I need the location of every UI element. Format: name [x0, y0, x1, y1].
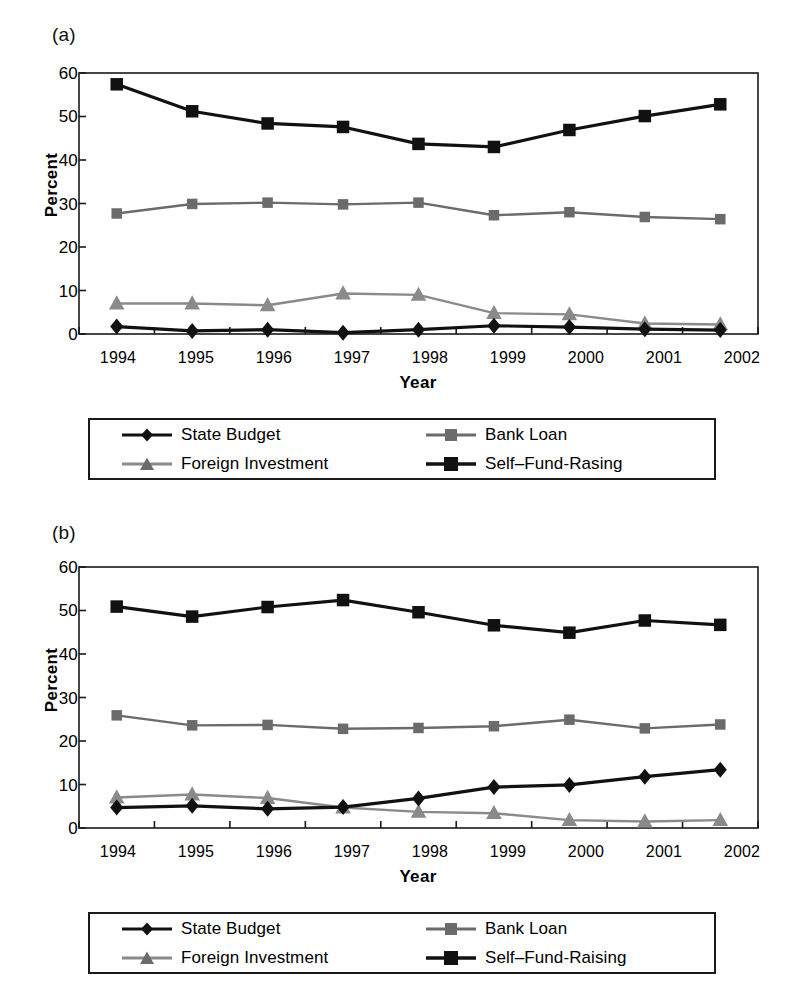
chart-a-point [487, 318, 500, 334]
legend-a-item-foreign-investment[interactable]: Foreign Investment [90, 454, 402, 474]
legend-b-item-state-budget[interactable]: State Budget [90, 919, 402, 939]
x-tick-a-1996: 1996 [256, 349, 292, 367]
chart-b-point [412, 790, 425, 806]
chart-a-point [563, 124, 576, 137]
square-marker-icon [424, 920, 478, 938]
chart-a-point [111, 208, 122, 219]
square-marker-icon [424, 426, 478, 444]
chart-a-point [110, 78, 123, 91]
x-tick-a-2001: 2001 [646, 349, 682, 367]
legend-a-label-1: Bank Loan [485, 425, 567, 445]
chart-b-series-self-fund-raising [110, 594, 726, 639]
legend-a-item-state-budget[interactable]: State Budget [90, 425, 402, 445]
x-tick-a-1998: 1998 [412, 349, 448, 367]
chart-a-point [335, 285, 351, 299]
chart-b-point [489, 721, 500, 732]
x-tick-b-1998: 1998 [412, 843, 448, 861]
chart-a-point [110, 319, 123, 335]
chart-b-point [413, 723, 424, 734]
chart-b-point [563, 626, 576, 639]
x-tick-a-2002: 2002 [724, 349, 760, 367]
chart-b-point [487, 779, 500, 795]
chart-a-point [564, 207, 575, 218]
triangle-marker-icon [120, 455, 174, 473]
chart-b-point [563, 777, 576, 793]
legend-b-item-foreign-investment[interactable]: Foreign Investment [90, 948, 402, 968]
chart-a-point [488, 141, 501, 154]
chart-a-point [412, 138, 425, 151]
triangle-marker-icon [120, 949, 174, 967]
chart-b-point [564, 714, 575, 725]
x-tick-a-1997: 1997 [334, 349, 370, 367]
chart-b-plot [0, 500, 792, 900]
chart-b-point [714, 762, 727, 778]
figure-root: (a) Percent 60 50 40 30 20 10 0 1994 199… [0, 0, 792, 1005]
x-tick-b-1997: 1997 [334, 843, 370, 861]
x-tick-b-2002: 2002 [724, 843, 760, 861]
chart-b-point [712, 812, 728, 826]
chart-a-point [563, 319, 576, 335]
x-axis-title-b: Year [78, 867, 758, 887]
legend-a-item-self-fund-rasing[interactable]: Self–Fund-Rasing [402, 454, 714, 474]
chart-b-point [262, 720, 273, 731]
panel-b: (b) Percent 60 50 40 30 20 10 0 1994 199… [0, 500, 792, 1005]
chart-a-point [413, 197, 424, 208]
chart-a-point [186, 323, 199, 339]
chart-a-point [337, 121, 350, 134]
x-tick-a-2000: 2000 [568, 349, 604, 367]
chart-b-point [412, 606, 425, 619]
x-tick-a-1995: 1995 [178, 349, 214, 367]
chart-a-series-bank-loan [111, 197, 725, 224]
chart-a-point [715, 214, 726, 225]
chart-b-point [639, 614, 652, 627]
legend-a: State Budget Bank Loan [88, 418, 716, 480]
legend-b-label-1: Bank Loan [485, 919, 567, 939]
chart-a-point [338, 199, 349, 210]
chart-b-point [110, 600, 123, 613]
chart-a-point [261, 322, 274, 338]
panel-a: (a) Percent 60 50 40 30 20 10 0 1994 199… [0, 0, 792, 500]
chart-b-point [187, 720, 198, 731]
x-tick-b-1995: 1995 [178, 843, 214, 861]
chart-a-point [412, 322, 425, 338]
legend-b-item-bank-loan[interactable]: Bank Loan [402, 919, 714, 939]
chart-a-point [187, 199, 198, 210]
x-tick-b-2001: 2001 [646, 843, 682, 861]
chart-a-point [639, 110, 652, 123]
chart-a-plot [0, 0, 792, 400]
diamond-marker-icon [120, 920, 174, 938]
chart-b-point [715, 719, 726, 730]
x-tick-b-1994: 1994 [100, 843, 136, 861]
diamond-marker-icon [120, 426, 174, 444]
legend-a-label-0: State Budget [181, 425, 281, 445]
chart-a-point [714, 98, 727, 111]
chart-b-point [714, 619, 727, 632]
x-axis-title-a: Year [78, 373, 758, 393]
chart-a-point [336, 325, 349, 341]
chart-b-point [638, 769, 651, 785]
legend-b: State Budget Bank Loan [88, 912, 716, 974]
square-marker-icon [424, 455, 478, 473]
legend-a-item-bank-loan[interactable]: Bank Loan [402, 425, 714, 445]
x-tick-a-1999: 1999 [490, 349, 526, 367]
legend-b-label-0: State Budget [181, 919, 281, 939]
chart-b-point [186, 610, 199, 623]
chart-b-series-bank-loan [111, 710, 725, 734]
x-tick-b-1996: 1996 [256, 843, 292, 861]
chart-a-point [640, 212, 651, 223]
legend-b-item-self-fund-raising[interactable]: Self–Fund-Raising [402, 948, 714, 968]
chart-a-series-self-fund-rasing [110, 78, 726, 153]
x-tick-a-1994: 1994 [100, 349, 136, 367]
chart-b-point [111, 710, 122, 721]
chart-b-point [488, 619, 501, 632]
x-tick-b-2000: 2000 [568, 843, 604, 861]
legend-a-label-3: Self–Fund-Rasing [485, 454, 623, 474]
chart-a-point [262, 197, 273, 208]
legend-b-label-3: Self–Fund-Raising [485, 948, 627, 968]
legend-b-label-2: Foreign Investment [181, 948, 328, 968]
chart-a-point [261, 117, 274, 129]
chart-b-point [337, 594, 350, 607]
x-tick-b-1999: 1999 [490, 843, 526, 861]
chart-a-point [489, 210, 500, 221]
chart-b-point [338, 724, 349, 735]
